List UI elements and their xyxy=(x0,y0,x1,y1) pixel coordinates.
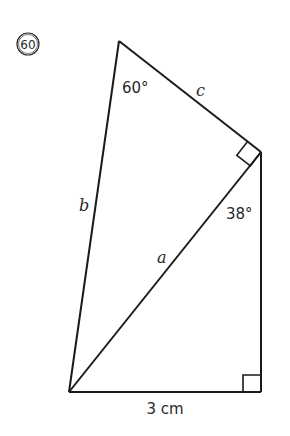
angle-label-60: 60° xyxy=(122,79,149,97)
side-label-b: b xyxy=(79,196,89,215)
right-angle-mark-top xyxy=(237,142,261,166)
side-label-a: a xyxy=(157,248,167,267)
geometry-figure: 60 60° 38° c b a 3 cm xyxy=(0,0,290,436)
right-angle-mark-bottom xyxy=(243,375,261,392)
angle-label-38: 38° xyxy=(226,205,253,223)
side-label-c: c xyxy=(196,81,205,100)
base-length-label: 3 cm xyxy=(146,400,183,418)
problem-number: 60 xyxy=(20,38,35,52)
diagram-svg: 60 60° 38° c b a 3 cm xyxy=(0,0,290,436)
problem-number-badge: 60 xyxy=(17,33,39,55)
